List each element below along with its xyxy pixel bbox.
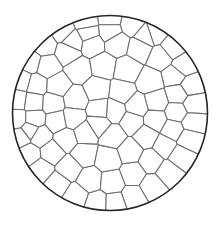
- voronoi-cells-group: [7, 10, 214, 217]
- voronoi-cell-face: [97, 10, 124, 25]
- voronoi-figure: [0, 0, 220, 226]
- tessellation-svg: [0, 0, 220, 226]
